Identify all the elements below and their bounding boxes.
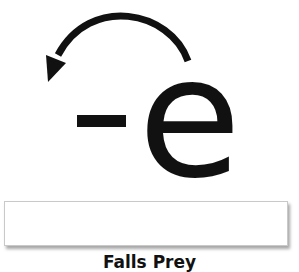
minus-sign — [77, 115, 126, 127]
electron-diagram: e — [0, 0, 299, 200]
answer-box[interactable] — [4, 201, 288, 246]
caption: Falls Prey — [0, 252, 299, 272]
letter-e: e — [138, 48, 239, 188]
